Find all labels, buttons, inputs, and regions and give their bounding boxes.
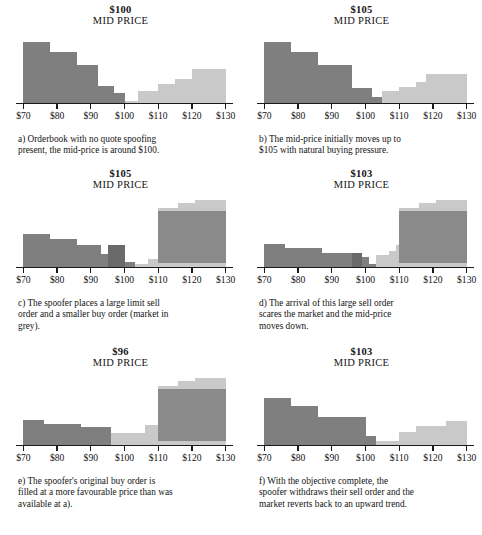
- x-axis-tick-70: [264, 268, 265, 272]
- ask-bar-1: [389, 251, 396, 267]
- panel-e-plot: $70$80$90$100$110$120$130: [0, 371, 241, 473]
- x-axis-label-100: $100: [115, 273, 134, 284]
- x-axis-tick-130: [466, 104, 467, 108]
- caption-line: present, the mid-price is around $100.: [18, 145, 235, 157]
- x-axis-label-80: $80: [50, 273, 65, 284]
- x-axis-label-110: $110: [390, 273, 409, 284]
- x-axis-tick-100: [365, 446, 366, 450]
- caption-line: $105 with natural buying pressure.: [259, 145, 476, 157]
- bid-bar-0: [23, 42, 50, 103]
- panel-c-caption: c) The spoofer places a large limit sell…: [0, 298, 241, 333]
- bid-bar-1: [285, 248, 322, 267]
- x-axis-line: [16, 267, 233, 268]
- x-axis-tick-80: [297, 104, 298, 108]
- x-axis-tick-70: [264, 104, 265, 108]
- bid-bar-1: [50, 51, 77, 102]
- bid-bar-4: [125, 261, 135, 266]
- x-axis-label-120: $120: [182, 451, 201, 462]
- x-axis-line: [16, 103, 233, 104]
- bid-bar-4: [114, 92, 124, 103]
- x-axis-tick-110: [399, 268, 400, 272]
- panel-b-plot: $70$80$90$100$110$120$130: [241, 29, 482, 131]
- panel-a-plot: $70$80$90$100$110$120$130: [0, 29, 241, 131]
- ask-bar-4: [192, 69, 226, 103]
- ask-bar-0: [135, 264, 148, 267]
- panel-f-caption: f) With the objective complete, thespoof…: [241, 476, 482, 511]
- caption-line: f) With the objective complete, the: [259, 476, 476, 488]
- x-axis-tick-100: [124, 268, 125, 272]
- mid-price-value: $103: [241, 168, 482, 179]
- ask-bar-2: [416, 426, 446, 445]
- x-axis-label-80: $80: [50, 451, 65, 462]
- ask-bar-2: [158, 84, 175, 103]
- bid-bar-0: [264, 243, 284, 266]
- ask-bar-2: [396, 245, 399, 267]
- caption-line: a) Orderbook with no quote spoofing: [18, 134, 235, 146]
- ask-bar-1: [145, 425, 158, 445]
- x-axis-label-90: $90: [325, 273, 340, 284]
- bid-bar-0: [23, 233, 50, 266]
- panel-a-title: $100MID PRICE: [0, 4, 241, 27]
- bid-bar-2: [81, 427, 111, 445]
- bid-bar-1: [50, 239, 77, 267]
- ask-bar-1: [138, 91, 158, 103]
- x-axis-label-80: $80: [50, 109, 65, 120]
- mid-price-label: MID PRICE: [0, 15, 241, 26]
- ask-bar-3: [446, 420, 466, 444]
- x-axis-tick-110: [158, 104, 159, 108]
- x-axis-label-80: $80: [291, 109, 306, 120]
- ask-bar-1: [399, 86, 416, 102]
- ask-bar-2: [416, 82, 426, 103]
- panel-e: $96MID PRICE$70$80$90$100$110$120$130e) …: [0, 346, 241, 511]
- x-axis-tick-120: [191, 268, 192, 272]
- panel-b-caption: b) The mid-price initially moves up to$1…: [241, 134, 482, 157]
- panel-c: $105MID PRICE$70$80$90$100$110$120$130c)…: [0, 168, 241, 333]
- panel-d-caption: d) The arrival of this large sell orders…: [241, 298, 482, 333]
- x-axis-tick-100: [365, 268, 366, 272]
- caption-line: available at a).: [18, 499, 235, 511]
- panel-e-title: $96MID PRICE: [0, 346, 241, 369]
- mid-price-value: $105: [241, 4, 482, 15]
- x-axis-line: [257, 267, 474, 268]
- bid-bar-2: [77, 245, 101, 267]
- bid-bar-2: [318, 417, 365, 445]
- x-axis-label-70: $70: [16, 109, 31, 120]
- panel-f-title: $103MID PRICE: [241, 346, 482, 369]
- panel-d: $103MID PRICE$70$80$90$100$110$120$130d)…: [241, 168, 482, 333]
- x-axis-label-110: $110: [149, 109, 168, 120]
- x-axis-label-80: $80: [291, 273, 306, 284]
- ask-bar-3: [175, 78, 192, 103]
- mid-price-label: MID PRICE: [241, 179, 482, 190]
- x-axis-tick-120: [432, 268, 433, 272]
- bid-bar-3: [366, 436, 376, 445]
- ask-bar-0: [376, 440, 400, 444]
- x-axis-label-110: $110: [149, 451, 168, 462]
- caption-line: order and a smaller buy order (market in: [18, 309, 235, 321]
- x-axis-tick-70: [264, 446, 265, 450]
- x-axis-label-70: $70: [16, 273, 31, 284]
- x-axis-tick-110: [158, 446, 159, 450]
- panel-e-caption: e) The spoofer's original buy order isfi…: [0, 476, 241, 511]
- x-axis-line: [257, 445, 474, 446]
- x-axis-label-130: $130: [457, 109, 476, 120]
- mid-price-label: MID PRICE: [241, 15, 482, 26]
- x-axis-tick-130: [225, 446, 226, 450]
- caption-line: filled at a more favourable price than w…: [18, 487, 235, 499]
- x-axis-label-110: $110: [149, 273, 168, 284]
- x-axis-label-90: $90: [325, 451, 340, 462]
- panel-d-plot: $70$80$90$100$110$120$130: [241, 193, 482, 295]
- mid-price-value: $100: [0, 4, 241, 15]
- ask-bar-0: [111, 433, 145, 445]
- x-axis-label-100: $100: [115, 451, 134, 462]
- bid-bar-2: [77, 64, 97, 103]
- bid-bar-0: [264, 398, 291, 445]
- x-axis-label-80: $80: [291, 451, 306, 462]
- x-axis-label-120: $120: [423, 451, 442, 462]
- x-axis-label-90: $90: [84, 109, 99, 120]
- bid-bar-3: [352, 87, 372, 102]
- bid-bar-1: [291, 51, 318, 102]
- ask-bar-1: [399, 431, 416, 444]
- mid-price-value: $96: [0, 346, 241, 357]
- x-axis-tick-90: [90, 268, 91, 272]
- spoof-sell-bar-0: [399, 211, 466, 262]
